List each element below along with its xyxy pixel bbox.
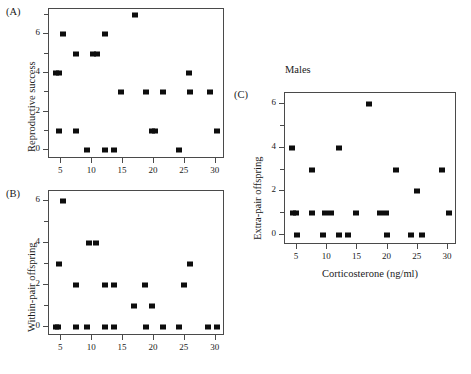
- y-tick-label-b: 0: [18, 320, 40, 330]
- panel-c-title: Males: [285, 64, 311, 75]
- data-point-c: [383, 211, 389, 216]
- y-tick-label-a: 6: [18, 27, 40, 37]
- data-point-a: [84, 148, 90, 153]
- data-point-b: [102, 324, 108, 329]
- data-point-b: [214, 324, 220, 329]
- x-tick-label-b: 10: [79, 342, 103, 352]
- panel-c-plot-frame: [284, 92, 456, 244]
- data-point-a: [132, 12, 138, 17]
- panel-c-letter: (C): [234, 89, 248, 100]
- x-tick-c: [417, 244, 418, 249]
- panel-c-x-axis-title: Corticosterone (ng/ml): [284, 268, 456, 279]
- data-point-c: [419, 233, 425, 238]
- x-tick-a: [91, 158, 92, 163]
- data-point-a: [102, 32, 108, 37]
- x-tick-c: [326, 244, 327, 249]
- y-tick-label-b: 2: [18, 278, 40, 288]
- x-tick-a: [122, 158, 123, 163]
- data-point-c: [309, 167, 315, 172]
- data-point-b: [73, 282, 79, 287]
- data-point-a: [73, 128, 79, 133]
- x-tick-label-c: 15: [344, 251, 368, 261]
- y-minor-tick-a: [44, 91, 48, 92]
- data-point-a: [102, 148, 108, 153]
- data-point-a: [111, 148, 117, 153]
- x-tick-label-a: 30: [203, 165, 227, 175]
- y-minor-tick-a: [44, 53, 48, 54]
- y-tick-label-c: 4: [254, 141, 276, 151]
- data-point-c: [446, 211, 452, 216]
- data-point-b: [56, 262, 62, 267]
- x-tick-label-a: 5: [48, 165, 72, 175]
- x-tick-label-a: 10: [79, 165, 103, 175]
- data-point-c: [293, 211, 299, 216]
- x-tick-label-a: 25: [172, 165, 196, 175]
- y-tick-label-c: 2: [254, 184, 276, 194]
- y-tick-c: [279, 190, 284, 191]
- y-tick-label-a: 4: [18, 66, 40, 76]
- x-tick-c: [356, 244, 357, 249]
- x-tick-c: [387, 244, 388, 249]
- panel-a-plot-area: [49, 9, 223, 157]
- data-point-b: [93, 241, 99, 246]
- data-point-a: [186, 70, 192, 75]
- data-point-b: [149, 303, 155, 308]
- data-point-b: [111, 324, 117, 329]
- y-minor-tick-c: [280, 125, 284, 126]
- x-tick-label-c: 20: [375, 251, 399, 261]
- y-minor-tick-b: [44, 263, 48, 264]
- data-point-a: [56, 70, 62, 75]
- data-point-a: [187, 90, 193, 95]
- x-tick-c: [447, 244, 448, 249]
- data-point-a: [160, 90, 166, 95]
- data-point-b: [181, 282, 187, 287]
- y-minor-tick-b: [44, 305, 48, 306]
- data-point-b: [55, 324, 61, 329]
- figure-root: (A) Reproductive success (B) Within-pair…: [0, 0, 471, 374]
- x-tick-b: [184, 335, 185, 340]
- y-tick-a: [43, 111, 48, 112]
- y-tick-label-a: 2: [18, 105, 40, 115]
- y-tick-a: [43, 72, 48, 73]
- data-point-a: [73, 51, 79, 56]
- data-point-a: [143, 90, 149, 95]
- data-point-a: [60, 32, 66, 37]
- data-point-b: [60, 199, 66, 204]
- x-tick-label-b: 30: [203, 342, 227, 352]
- x-tick-b: [153, 335, 154, 340]
- data-point-c: [289, 145, 295, 150]
- y-tick-c: [279, 103, 284, 104]
- y-tick-label-b: 6: [18, 194, 40, 204]
- x-tick-b: [60, 335, 61, 340]
- data-point-c: [414, 189, 420, 194]
- data-point-c: [320, 233, 326, 238]
- y-tick-b: [43, 284, 48, 285]
- y-tick-a: [43, 149, 48, 150]
- x-tick-a: [60, 158, 61, 163]
- data-point-b: [131, 303, 137, 308]
- data-point-b: [160, 324, 166, 329]
- data-point-c: [384, 233, 390, 238]
- data-point-c: [353, 211, 359, 216]
- x-tick-label-a: 20: [141, 165, 165, 175]
- data-point-b: [143, 324, 149, 329]
- data-point-b: [187, 262, 193, 267]
- panel-b-plot-area: [49, 191, 223, 334]
- data-point-c: [336, 145, 342, 150]
- data-point-c: [328, 211, 334, 216]
- y-tick-label-b: 4: [18, 236, 40, 246]
- y-tick-c: [279, 147, 284, 148]
- x-tick-label-c: 30: [435, 251, 459, 261]
- y-minor-tick-c: [280, 212, 284, 213]
- data-point-b: [205, 324, 211, 329]
- y-tick-a: [43, 33, 48, 34]
- x-tick-label-b: 25: [172, 342, 196, 352]
- y-minor-tick-a: [44, 130, 48, 131]
- panel-a-letter: (A): [6, 6, 21, 17]
- y-minor-tick-b: [44, 221, 48, 222]
- data-point-b: [86, 241, 92, 246]
- y-tick-label-a: 0: [18, 143, 40, 153]
- y-minor-tick-a: [44, 14, 48, 15]
- y-minor-tick-c: [280, 169, 284, 170]
- data-point-b: [111, 282, 117, 287]
